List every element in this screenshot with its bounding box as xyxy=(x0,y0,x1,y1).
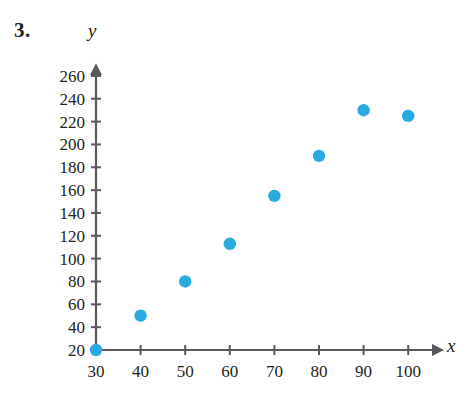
y-tick-label: 20 xyxy=(68,341,85,360)
data-point-marker xyxy=(357,104,369,116)
x-tick-label: 60 xyxy=(221,362,238,381)
y-tick-label: 60 xyxy=(68,295,85,314)
data-point-marker xyxy=(90,344,102,356)
y-tick-label: 100 xyxy=(60,250,86,269)
y-tick-label: 40 xyxy=(68,318,85,337)
x-tick-label: 100 xyxy=(395,362,421,381)
x-tick-label: 30 xyxy=(88,362,105,381)
data-point-marker xyxy=(179,275,191,287)
y-tick-label: 160 xyxy=(60,181,86,200)
y-tick-label: 220 xyxy=(60,113,86,132)
data-point-marker xyxy=(134,310,146,322)
x-tick-label: 90 xyxy=(355,362,372,381)
y-tick-label: 260 xyxy=(60,67,86,86)
y-tick-label: 140 xyxy=(60,204,86,223)
plot-area: 2040608010012014016018020022024026030405… xyxy=(0,0,469,395)
x-tick-label: 50 xyxy=(177,362,194,381)
data-point-marker xyxy=(268,190,280,202)
y-tick-label: 200 xyxy=(60,135,86,154)
y-tick-label: 180 xyxy=(60,158,86,177)
y-tick-label: 240 xyxy=(60,90,86,109)
data-point-marker xyxy=(313,150,325,162)
y-tick-label: 80 xyxy=(68,272,85,291)
x-tick-label: 80 xyxy=(311,362,328,381)
x-tick-label: 70 xyxy=(266,362,283,381)
x-tick-label: 40 xyxy=(132,362,149,381)
y-tick-label: 120 xyxy=(60,227,86,246)
scatter-plot-figure: 3. y x 204060801001201401601802002202402… xyxy=(0,0,469,395)
data-point-marker xyxy=(224,238,236,250)
data-point-marker xyxy=(402,110,414,122)
